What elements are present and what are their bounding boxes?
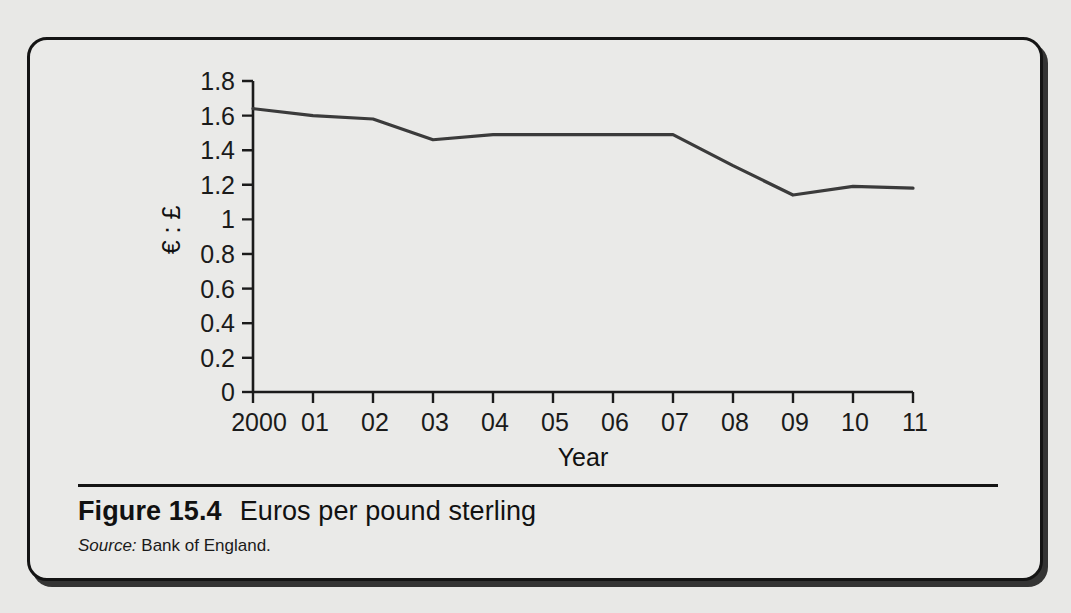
y-tick-label: 1.4 <box>200 136 235 164</box>
x-tick-label: 07 <box>661 408 689 436</box>
y-tick-label: 1 <box>221 205 235 233</box>
figure-panel: 1.8 1.6 1.4 1.2 1 0.8 0.6 0.4 0.2 0 € : … <box>27 37 1043 581</box>
x-tick-label: 06 <box>601 408 629 436</box>
y-axis-ticks <box>242 81 253 392</box>
y-tick-label: 1.2 <box>200 171 235 199</box>
x-tick-label: 02 <box>361 408 389 436</box>
x-tick-label: 08 <box>721 408 749 436</box>
y-tick-label: 0.2 <box>200 344 235 372</box>
figure-number: Figure 15.4 <box>78 496 222 526</box>
figure-caption: Figure 15.4Euros per pound sterling <box>78 496 998 527</box>
figure-source: Source: Bank of England. <box>78 536 998 556</box>
x-tick-label: 04 <box>481 408 509 436</box>
y-tick-label: 0.8 <box>200 240 235 268</box>
x-tick-label: 2000 <box>231 408 287 436</box>
data-series-line <box>253 109 913 195</box>
chart-plot-area: 1.8 1.6 1.4 1.2 1 0.8 0.6 0.4 0.2 0 € : … <box>30 40 1043 480</box>
y-tick-label: 1.8 <box>200 67 235 95</box>
x-axis-ticks <box>253 392 913 403</box>
x-axis-title: Year <box>558 443 609 471</box>
y-tick-label: 0 <box>221 378 235 406</box>
source-value: Bank of England. <box>141 536 270 555</box>
x-tick-label: 05 <box>541 408 569 436</box>
x-tick-label: 01 <box>301 408 329 436</box>
source-label: Source: <box>78 536 137 555</box>
x-axis-tick-labels: 2000 01 02 03 04 05 06 07 08 09 10 11 <box>231 408 928 436</box>
x-tick-label: 11 <box>902 408 928 436</box>
y-tick-label: 0.6 <box>200 275 235 303</box>
y-tick-label: 0.4 <box>200 309 235 337</box>
x-tick-label: 10 <box>841 408 869 436</box>
y-axis-tick-labels: 1.8 1.6 1.4 1.2 1 0.8 0.6 0.4 0.2 0 <box>200 67 235 406</box>
figure-caption-text: Euros per pound sterling <box>240 496 537 526</box>
caption-divider <box>78 484 998 487</box>
x-tick-label: 03 <box>421 408 449 436</box>
line-chart: 1.8 1.6 1.4 1.2 1 0.8 0.6 0.4 0.2 0 € : … <box>30 40 1043 480</box>
caption-block: Figure 15.4Euros per pound sterling Sour… <box>78 496 998 556</box>
y-axis-title: € : £ <box>157 206 185 255</box>
y-tick-label: 1.6 <box>200 102 235 130</box>
x-tick-label: 09 <box>781 408 809 436</box>
